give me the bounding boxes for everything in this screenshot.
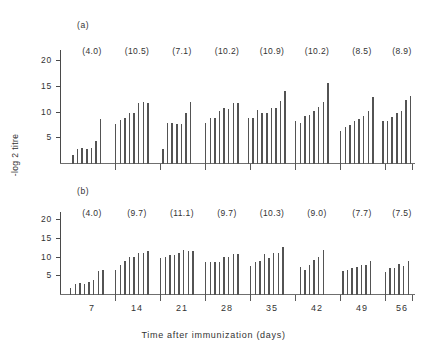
bar xyxy=(138,103,140,164)
x-tick-label: 14 xyxy=(124,303,150,313)
bar xyxy=(190,102,192,164)
x-tick-mark xyxy=(295,295,296,301)
bar xyxy=(271,108,273,165)
x-axis-title: Time after immunization (days) xyxy=(0,330,427,340)
y-tick-label: 20 xyxy=(26,55,52,65)
y-tick-label: 20 xyxy=(26,214,52,224)
bar xyxy=(210,262,212,295)
panel-b-plot-area xyxy=(60,213,415,295)
bar xyxy=(356,267,358,295)
bar xyxy=(372,97,374,164)
bar xyxy=(248,118,250,164)
bar xyxy=(282,247,284,295)
bar xyxy=(318,107,320,164)
bar xyxy=(323,250,325,295)
bar xyxy=(347,270,349,295)
bar xyxy=(129,113,131,164)
bar xyxy=(318,257,320,295)
bar xyxy=(382,121,384,164)
bar xyxy=(313,260,315,295)
bar xyxy=(88,282,90,295)
panel-a-bars xyxy=(60,52,415,164)
bar xyxy=(223,108,225,164)
bar xyxy=(389,268,391,295)
y-tick-label: 15 xyxy=(26,233,52,243)
bar xyxy=(410,96,412,164)
bar xyxy=(237,103,239,164)
panel-a-plot-area xyxy=(60,52,415,164)
bar xyxy=(167,123,169,164)
bar xyxy=(323,102,325,164)
bar xyxy=(396,113,398,164)
bar xyxy=(403,266,405,295)
x-tick-mark xyxy=(385,295,386,301)
x-tick-mark xyxy=(250,164,251,170)
bar xyxy=(181,124,183,164)
bar xyxy=(408,261,410,295)
bar xyxy=(401,111,403,164)
bar xyxy=(183,250,185,295)
bar xyxy=(361,265,363,295)
bar xyxy=(237,254,239,295)
x-tick-label: 21 xyxy=(169,303,195,313)
x-tick-mark xyxy=(250,295,251,301)
x-tick-label: 7 xyxy=(79,303,105,313)
x-tick-label: 42 xyxy=(304,303,330,313)
bar xyxy=(228,109,230,164)
x-tick-mark xyxy=(340,164,341,170)
bar xyxy=(143,253,145,295)
bar xyxy=(252,118,254,164)
bar xyxy=(70,288,72,295)
x-tick-mark xyxy=(115,164,116,170)
bar xyxy=(100,119,102,164)
bar xyxy=(266,113,268,164)
bar xyxy=(264,254,266,295)
bar xyxy=(91,148,93,164)
bar xyxy=(313,111,315,164)
bar xyxy=(86,149,88,164)
bar xyxy=(210,118,212,164)
bar xyxy=(178,253,180,295)
bar xyxy=(102,270,104,295)
bar xyxy=(72,155,74,164)
bar xyxy=(188,251,190,295)
panel-b-label: (b) xyxy=(77,186,89,196)
bar xyxy=(349,125,351,164)
bar xyxy=(327,83,329,164)
bar xyxy=(205,123,207,164)
x-tick-mark xyxy=(412,164,413,170)
x-tick-label: 35 xyxy=(259,303,285,313)
bar xyxy=(185,113,187,164)
y-tick-label: 15 xyxy=(26,81,52,91)
bar xyxy=(192,251,194,295)
bar xyxy=(261,113,263,164)
bar xyxy=(300,123,302,164)
bar xyxy=(115,124,117,164)
bar xyxy=(133,257,135,295)
bar xyxy=(398,264,400,295)
x-tick-label: 56 xyxy=(389,303,415,313)
bar xyxy=(273,253,275,295)
figure-root: -log 2 titre (a) 5101520 (4.0)(10.5)(7.1… xyxy=(0,0,427,358)
y-tick-label: 10 xyxy=(26,107,52,117)
bar xyxy=(129,257,131,295)
bar xyxy=(280,101,282,164)
x-tick-label: 28 xyxy=(214,303,240,313)
bar xyxy=(304,270,306,295)
bar xyxy=(162,149,164,164)
bar xyxy=(405,100,407,164)
x-tick-mark xyxy=(205,164,206,170)
x-tick-mark xyxy=(205,295,206,301)
x-tick-label: 49 xyxy=(349,303,375,313)
bar xyxy=(98,271,100,295)
bar xyxy=(275,108,277,164)
bar xyxy=(259,261,261,295)
bar xyxy=(138,253,140,295)
x-tick-mark xyxy=(160,164,161,170)
bar xyxy=(95,141,97,164)
bar xyxy=(257,110,259,164)
bar xyxy=(391,117,393,164)
y-tick-label: 10 xyxy=(26,252,52,262)
bar xyxy=(387,121,389,164)
bar xyxy=(304,116,306,164)
